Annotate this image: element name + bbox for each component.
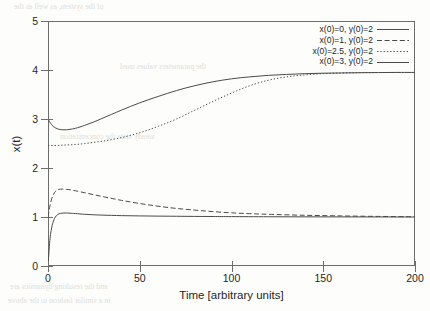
y-tick-label: 1	[32, 212, 38, 223]
series-line-3	[48, 72, 415, 145]
x-tick-label: 0	[45, 273, 51, 284]
legend-label: x(0)=3, y(0)=2	[320, 57, 373, 67]
y-tick-label: 2	[32, 163, 38, 174]
series-line-4	[48, 72, 415, 129]
legend-key-icon	[377, 48, 409, 55]
plot-area: 012345 050100150200 Time [arbitrary unit…	[48, 21, 415, 266]
y-tick-inner	[48, 119, 53, 120]
legend-item[interactable]: x(0)=3, y(0)=2	[320, 57, 409, 67]
y-axis-title: x(t)	[10, 135, 22, 152]
legend-key-icon	[377, 37, 409, 44]
y-tick	[41, 266, 48, 267]
x-tick-inner	[232, 261, 233, 266]
x-tick-label: 150	[314, 273, 332, 284]
x-tick-inner	[415, 261, 416, 266]
legend-key-icon	[377, 59, 409, 66]
bleed-artifact: of the system, as well as the	[14, 2, 104, 11]
x-axis-title: Time [arbitrary units]	[48, 289, 415, 301]
x-tick-label: 50	[134, 273, 146, 284]
x-tick-label: 100	[223, 273, 241, 284]
x-tick-inner	[323, 261, 324, 266]
legend-key-icon	[377, 26, 409, 33]
y-tick-inner	[48, 217, 53, 218]
y-tick	[41, 21, 48, 22]
legend: x(0)=0, y(0)=2x(0)=1, y(0)=2x(0)=2.5, y(…	[313, 25, 409, 67]
y-tick-inner	[48, 168, 53, 169]
y-tick-inner	[48, 21, 53, 22]
x-tick-label: 200	[406, 273, 424, 284]
y-tick	[41, 70, 48, 71]
legend-item[interactable]: x(0)=2.5, y(0)=2	[313, 47, 409, 57]
x-tick-inner	[48, 261, 49, 266]
series-line-1	[48, 213, 415, 266]
y-tick-label: 3	[32, 114, 38, 125]
legend-item[interactable]: x(0)=1, y(0)=2	[320, 36, 409, 46]
y-tick-inner	[48, 70, 53, 71]
legend-item[interactable]: x(0)=0, y(0)=2	[320, 25, 409, 35]
y-tick	[41, 217, 48, 218]
y-tick	[41, 119, 48, 120]
legend-label: x(0)=0, y(0)=2	[320, 25, 373, 35]
legend-label: x(0)=2.5, y(0)=2	[313, 47, 373, 57]
x-tick-inner	[140, 261, 141, 266]
legend-label: x(0)=1, y(0)=2	[320, 36, 373, 46]
y-tick-label: 0	[32, 261, 38, 272]
series-line-2	[48, 189, 415, 217]
figure-root: of the system, as well as the the parame…	[0, 0, 430, 311]
y-tick-label: 4	[32, 65, 38, 76]
y-tick-label: 5	[32, 16, 38, 27]
y-tick	[41, 168, 48, 169]
